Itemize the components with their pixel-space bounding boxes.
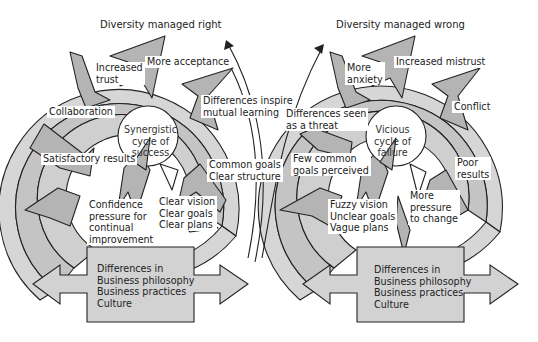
right-label-conflict: Conflict	[452, 101, 492, 113]
left-label-confidence: Confidence pressure for continual improv…	[87, 199, 155, 245]
left-box-text: Differences in Business philosophy Busin…	[97, 263, 194, 309]
left-cycle-title: Diversity managed right	[100, 19, 222, 31]
left-cycle-center: Synergistic cycle of success	[124, 124, 177, 159]
left-label-collaboration: Collaboration	[47, 106, 115, 118]
right-label-more-anxiety: More anxiety	[345, 62, 385, 85]
right-label-more-pressure: More pressure to change	[408, 190, 460, 225]
left-label-satisfactory-results: Satisfactory results	[41, 153, 137, 165]
right-label-poor-results: Poor results	[455, 157, 491, 180]
right-cycle-center: Vicious cycle of failure	[374, 124, 411, 159]
right-label-few-common-goals: Few common goals perceived	[291, 153, 371, 176]
right-label-fuzzy-vision: Fuzzy vision Unclear goals Vague plans	[328, 199, 397, 234]
left-label-more-acceptance: More acceptance	[145, 56, 231, 68]
left-label-clear-vision: Clear vision Clear goals Clear plans	[157, 196, 217, 231]
right-label-increased-mistrust: Increased mistrust	[394, 56, 487, 68]
right-label-differences-seen: Differences seen as a threat	[284, 108, 368, 131]
left-label-common-goals: Common goals Clear structure	[207, 159, 283, 182]
left-label-differences-inspire: Differences inspire mutual learning	[201, 95, 295, 118]
left-label-increased-trust: Increased trust	[94, 62, 145, 85]
right-box-text: Differences in Business philosophy Busin…	[374, 264, 471, 310]
right-cycle-title: Diversity managed wrong	[336, 19, 465, 31]
